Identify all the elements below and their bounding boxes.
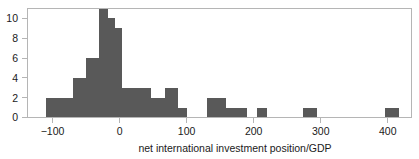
histogram-bar [178,108,187,118]
histogram-bar [115,28,122,117]
y-axis-ticks: 0246810 [6,12,27,123]
x-tick-label: 300 [312,125,330,137]
histogram-bar [122,88,152,118]
y-tick-label: 0 [12,111,18,123]
x-tick-label: 100 [178,125,196,137]
histogram-bar [86,58,93,118]
histogram-bar [93,58,100,118]
y-tick-label: 8 [12,32,18,44]
x-tick-label: −100 [41,125,65,137]
x-tick-label: 0 [117,125,123,137]
histogram-bar [257,108,267,118]
x-axis-title: net international investment position/GD… [138,142,331,154]
histogram-bar [46,98,59,118]
histogram-bar [207,98,226,118]
histogram-bar [59,98,72,118]
y-tick-label: 6 [12,52,18,64]
x-axis-ticks: −1000100200300400 [41,118,397,138]
y-tick-label: 2 [12,92,18,104]
histogram-bar [303,108,316,118]
histogram-bar [385,108,398,118]
histogram-bar [108,18,115,117]
histogram-bar [73,78,86,118]
y-tick-label: 10 [6,12,18,24]
histogram-plot: 0246810 −1000100200300400 net internatio… [0,0,419,159]
x-tick-label: 200 [245,125,263,137]
y-tick-label: 4 [12,72,18,84]
histogram-bars [46,8,399,117]
x-tick-label: 400 [379,125,397,137]
histogram-figure: 0246810 −1000100200300400 net internatio… [0,0,419,159]
histogram-bar [99,8,108,117]
histogram-bar [165,88,178,118]
histogram-bar [226,108,247,118]
histogram-bar [151,98,164,118]
